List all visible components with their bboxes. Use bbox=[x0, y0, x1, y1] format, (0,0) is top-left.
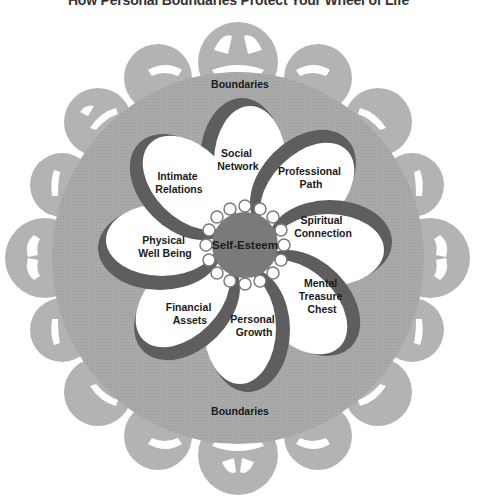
petal-label-physical-well-being: Physical Well Being bbox=[138, 234, 191, 259]
petal-label-financial-assets: Financial Assets bbox=[166, 301, 214, 326]
petal-label-social-network: Social Network bbox=[217, 147, 259, 172]
boundaries-label-top: Boundaries bbox=[211, 78, 269, 90]
self-esteem-label: Self-Esteem bbox=[212, 239, 278, 251]
petal-label-personal-growth: Personal Growth bbox=[230, 313, 277, 338]
petal-label-spiritual-connection: Spiritual Connection bbox=[294, 214, 352, 239]
petal-label-intimate-relations: Intimate Relations bbox=[155, 170, 202, 195]
boundaries-label-bottom: Boundaries bbox=[211, 405, 269, 417]
wheel-of-life-diagram: Boundaries Boundaries Self-Esteem Social… bbox=[0, 0, 477, 498]
